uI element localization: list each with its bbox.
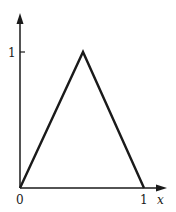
origin-label: 0 — [16, 193, 24, 207]
y-axis-arrow-icon — [17, 13, 24, 24]
x-axis-label: x — [157, 193, 164, 207]
y-tick-label-1: 1 — [8, 46, 16, 60]
triangle-curve — [20, 52, 144, 188]
x-tick-label-1: 1 — [140, 193, 148, 207]
triangle-function-plot: 1 0 1 x — [0, 0, 176, 212]
x-axis-arrow-icon — [156, 185, 167, 192]
